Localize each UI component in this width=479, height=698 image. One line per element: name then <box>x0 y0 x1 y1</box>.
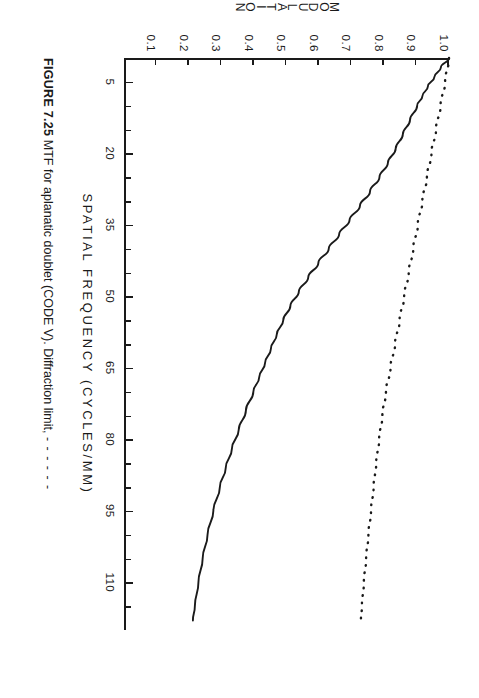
mtf-plot-area: 5203550658095110 1.00.90.80.70.60.50.40.… <box>124 58 449 630</box>
x-axis-tick-minor <box>124 320 131 322</box>
x-axis-title: SPATIAL FREQUENCY (CYCLES/MM) <box>80 193 95 494</box>
figure-caption-label: FIGURE 7.25 <box>41 58 55 136</box>
x-axis-tick-major <box>124 153 133 155</box>
x-axis-tick-major <box>124 296 133 298</box>
y-axis-tick-label: 0.7 <box>341 24 353 52</box>
figure-caption-dashes: - - - - - - <box>41 437 55 490</box>
y-axis-title-char: N <box>234 3 245 12</box>
x-axis-tick-minor <box>124 130 131 132</box>
x-axis-tick-label: 20 <box>104 146 116 160</box>
x-axis-tick-minor <box>124 392 131 394</box>
x-axis-tick-minor <box>124 273 131 275</box>
y-axis-title: MODULATION <box>234 2 339 12</box>
y-axis-tick <box>155 58 157 65</box>
x-axis-tick-label: 35 <box>104 218 116 232</box>
x-axis-tick-major <box>124 225 133 227</box>
x-axis-tick-major <box>124 439 133 441</box>
x-axis-tick-major <box>124 582 133 584</box>
y-axis-tick-label: 0.6 <box>308 24 320 52</box>
x-axis-tick-minor <box>124 201 131 203</box>
y-axis-tick <box>220 58 222 65</box>
y-axis-title-char: L <box>287 4 298 11</box>
x-axis-tick-major <box>124 511 133 513</box>
x-axis-tick-minor <box>124 559 131 561</box>
figure-caption: FIGURE 7.25 MTF for aplanatic doublet (C… <box>41 58 55 658</box>
x-axis-tick-minor <box>124 249 131 251</box>
y-axis-tick <box>415 58 417 65</box>
y-axis-tick-label: 0.1 <box>146 24 158 52</box>
y-axis-tick-label: 0.9 <box>406 24 418 52</box>
y-axis-tick <box>350 58 352 65</box>
x-axis-tick-label: 5 <box>104 78 116 85</box>
y-axis-tick-label: 0.2 <box>178 24 190 52</box>
y-axis-title-char: M <box>329 2 340 12</box>
x-axis-tick-minor <box>124 177 131 179</box>
y-axis-tick-label: 1.0 <box>438 24 450 52</box>
figure-7-25: 5203550658095110 1.00.90.80.70.60.50.40.… <box>0 0 479 698</box>
y-axis-tick <box>318 58 320 65</box>
x-axis-tick-minor <box>124 606 131 608</box>
y-axis-tick-label: 0.4 <box>243 24 255 52</box>
series-aplanatic-doublet <box>193 58 449 620</box>
y-axis-title-char: D <box>308 3 319 12</box>
rotated-figure-canvas: 5203550658095110 1.00.90.80.70.60.50.40.… <box>0 0 479 698</box>
x-axis-tick-label: 95 <box>104 504 116 518</box>
figure-caption-text: MTF for aplanatic doublet (CODE V). Diff… <box>41 140 55 434</box>
x-axis-tick-label: 65 <box>104 361 116 375</box>
x-axis-tick-minor <box>124 344 131 346</box>
x-axis-tick-minor <box>124 416 131 418</box>
y-axis-tick <box>383 58 385 65</box>
y-axis-tick-label: 0.5 <box>276 24 288 52</box>
x-axis-tick-label: 50 <box>104 289 116 303</box>
y-axis-tick <box>188 58 190 65</box>
x-axis-tick-minor <box>124 487 131 489</box>
mtf-curves <box>124 58 449 630</box>
y-axis-tick <box>285 58 287 65</box>
x-axis-tick-major <box>124 368 133 370</box>
x-axis-tick-major <box>124 82 133 84</box>
y-axis-tick-label: 0.3 <box>211 24 223 52</box>
series-diffraction-limit <box>361 58 449 620</box>
y-axis-title-char: T <box>266 3 277 10</box>
x-axis-tick-label: 110 <box>104 572 116 592</box>
x-axis-tick-label: 80 <box>104 432 116 446</box>
y-axis-tick <box>448 58 450 65</box>
x-axis-tick-minor <box>124 535 131 537</box>
x-axis-tick-minor <box>124 463 131 465</box>
y-axis-tick-label: 0.8 <box>373 24 385 52</box>
y-axis-title-char: O <box>245 2 256 11</box>
x-axis-tick-minor <box>124 106 131 108</box>
y-axis-tick <box>253 58 255 65</box>
